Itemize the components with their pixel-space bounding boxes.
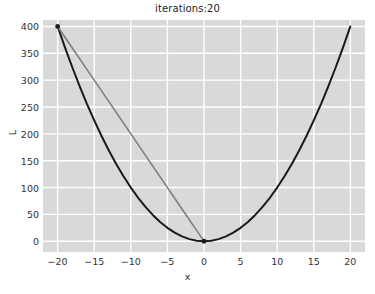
x-axis-tick-labels: −20−15−10−505101520	[0, 0, 375, 294]
x-tick-label: −5	[147, 256, 187, 267]
x-tick-label: −20	[38, 256, 78, 267]
x-tick-label: 5	[221, 256, 261, 267]
x-tick-label: 15	[294, 256, 334, 267]
x-tick-label: −10	[111, 256, 151, 267]
figure-canvas: iterations:20 050100150200250300350400 −…	[0, 0, 375, 294]
y-axis-label: L	[7, 113, 18, 153]
x-tick-label: 10	[257, 256, 297, 267]
x-tick-label: −15	[74, 256, 114, 267]
x-tick-label: 20	[330, 256, 370, 267]
x-axis-label: x	[0, 271, 375, 282]
x-tick-label: 0	[184, 256, 224, 267]
